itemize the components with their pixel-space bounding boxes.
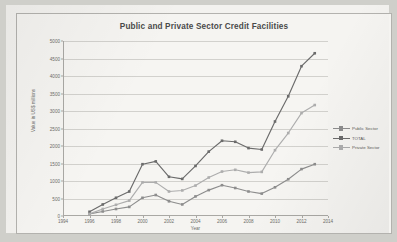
x-tick-mark: [222, 216, 223, 218]
chart-title: Public and Private Sector Credit Facilit…: [17, 22, 391, 31]
x-tick-label: 2002: [164, 219, 174, 224]
data-point-marker: [221, 170, 224, 173]
x-tick-mark: [302, 216, 303, 218]
y-tick-label: 2000: [50, 144, 60, 149]
data-point-marker: [141, 197, 144, 200]
x-tick-label: 1994: [58, 219, 68, 224]
legend-label: Private Sector: [352, 145, 380, 150]
y-tick-label: 4000: [50, 74, 60, 79]
data-point-marker: [247, 147, 250, 150]
x-tick-mark: [249, 216, 250, 218]
y-tick-label: 5000: [50, 39, 60, 44]
legend-item-total[interactable]: TOTAL: [333, 136, 380, 141]
data-point-marker: [141, 163, 144, 166]
x-tick-mark: [328, 216, 329, 218]
data-point-marker: [300, 168, 303, 171]
data-point-marker: [313, 104, 316, 107]
x-tick-mark: [90, 216, 91, 218]
data-point-marker: [168, 200, 171, 203]
data-point-marker: [168, 176, 171, 179]
data-point-marker: [115, 197, 118, 200]
x-tick-label: 2008: [243, 219, 253, 224]
y-tick-label: 4500: [50, 56, 60, 61]
data-point-marker: [221, 139, 224, 142]
chart-legend: Public SectorTOTALPrivate Sector: [333, 126, 380, 150]
x-tick-label: 2000: [137, 219, 147, 224]
series-public-sector: [88, 163, 316, 215]
data-point-marker: [101, 208, 104, 211]
legend-item-public-sector[interactable]: Public Sector: [333, 126, 380, 131]
x-tick-mark: [116, 216, 117, 218]
data-point-marker: [181, 178, 184, 181]
data-point-marker: [313, 163, 316, 166]
y-tick-label: 3000: [50, 109, 60, 114]
series-line: [90, 53, 315, 212]
series-layer: [63, 41, 328, 216]
chart-frame: Public and Private Sector Credit Facilit…: [16, 13, 392, 234]
data-point-marker: [274, 120, 277, 123]
legend-item-private-sector[interactable]: Private Sector: [333, 145, 380, 150]
data-point-marker: [260, 171, 263, 174]
legend-label: TOTAL: [352, 136, 366, 141]
data-point-marker: [128, 190, 131, 193]
x-tick-mark: [63, 216, 64, 218]
x-tick-label: 1998: [111, 219, 121, 224]
data-point-marker: [207, 189, 210, 192]
data-point-marker: [274, 186, 277, 189]
data-point-marker: [287, 132, 290, 135]
x-tick-label: 2006: [217, 219, 227, 224]
data-point-marker: [194, 165, 197, 168]
legend-swatch-icon: [333, 145, 350, 150]
y-tick-label: 0: [57, 214, 60, 219]
x-tick-label: 2014: [323, 219, 333, 224]
data-point-marker: [234, 187, 237, 190]
x-tick-mark: [275, 216, 276, 218]
data-point-marker: [101, 210, 104, 213]
y-tick-label: 500: [52, 196, 60, 201]
x-tick-mark: [169, 216, 170, 218]
x-tick-label: 2004: [190, 219, 200, 224]
data-point-marker: [88, 213, 91, 216]
data-point-marker: [247, 171, 250, 174]
data-point-marker: [300, 112, 303, 115]
x-tick-label: 2012: [296, 219, 306, 224]
data-point-marker: [154, 181, 157, 184]
data-point-marker: [154, 160, 157, 163]
data-point-marker: [194, 195, 197, 198]
data-point-marker: [260, 192, 263, 195]
data-point-marker: [194, 184, 197, 187]
x-tick-label: 2010: [270, 219, 280, 224]
y-tick-label: 1500: [50, 161, 60, 166]
data-point-marker: [313, 52, 316, 55]
data-point-marker: [128, 206, 131, 209]
x-tick-label: 1996: [84, 219, 94, 224]
y-axis-title: Value in US$ millions: [31, 89, 36, 132]
legend-label: Public Sector: [352, 126, 378, 131]
data-point-marker: [115, 208, 118, 211]
data-point-marker: [168, 190, 171, 193]
data-point-marker: [247, 190, 250, 193]
y-tick-label: 3500: [50, 91, 60, 96]
data-point-marker: [234, 141, 237, 144]
series-line: [90, 164, 315, 214]
data-point-marker: [260, 148, 263, 151]
legend-swatch-icon: [333, 126, 350, 131]
data-point-marker: [181, 203, 184, 206]
data-point-marker: [128, 199, 131, 202]
screenshot-canvas: Public and Private Sector Credit Facilit…: [0, 0, 397, 242]
x-tick-mark: [196, 216, 197, 218]
data-point-marker: [181, 189, 184, 192]
data-point-marker: [141, 181, 144, 184]
plot-area: 0500100015002000250030003500400045005000…: [63, 41, 328, 216]
x-axis-title: Year: [63, 226, 328, 231]
y-tick-label: 2500: [50, 126, 60, 131]
data-point-marker: [274, 149, 277, 152]
legend-swatch-icon: [333, 136, 350, 141]
data-point-marker: [287, 178, 290, 181]
data-point-marker: [221, 184, 224, 187]
series-total: [88, 52, 316, 213]
data-point-marker: [115, 204, 118, 207]
data-point-marker: [154, 194, 157, 197]
scanned-page: Public and Private Sector Credit Facilit…: [6, 5, 389, 233]
data-point-marker: [207, 150, 210, 153]
